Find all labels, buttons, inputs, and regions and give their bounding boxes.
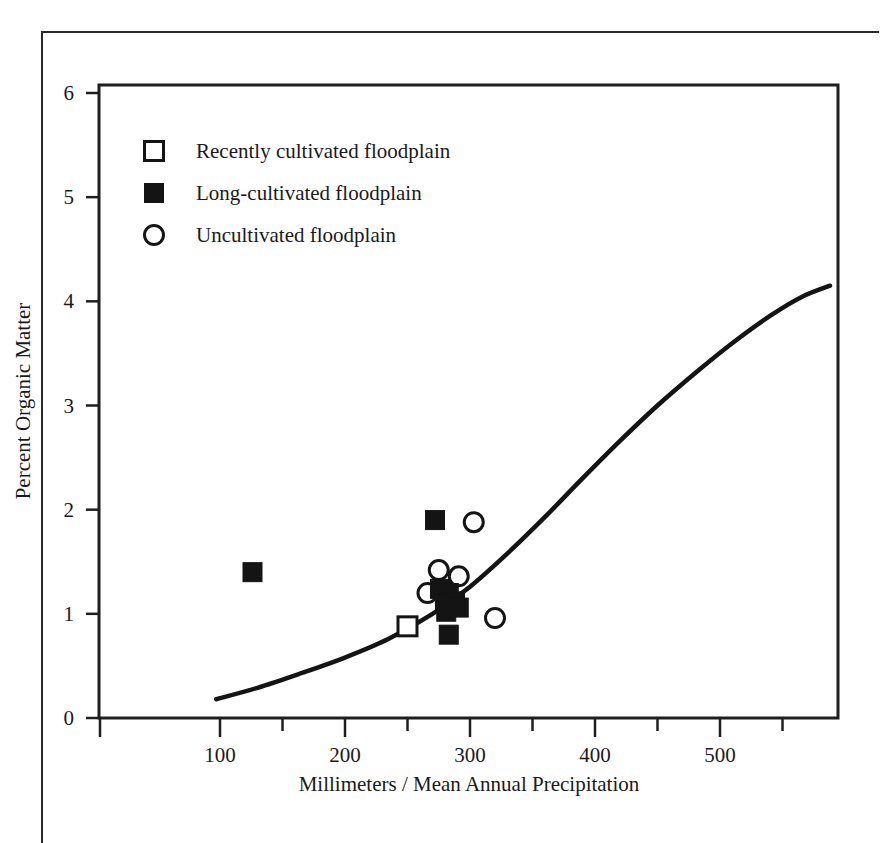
series-open-square bbox=[398, 617, 417, 636]
y-tick-label: 0 bbox=[64, 706, 75, 730]
figure-root: 0123456 100200300400500 Recently cultiva… bbox=[0, 0, 880, 843]
legend-marker-open-square bbox=[145, 142, 164, 161]
y-tick-label: 1 bbox=[64, 602, 75, 626]
data-marker-layer bbox=[243, 511, 505, 645]
y-tick-label: 2 bbox=[64, 498, 75, 522]
legend-entry: Uncultivated floodplain bbox=[145, 223, 397, 247]
x-axis-major-ticks bbox=[220, 718, 720, 737]
x-tick-label: 400 bbox=[579, 743, 611, 767]
data-point-filled-square bbox=[439, 625, 458, 644]
y-axis-tick-labels: 0123456 bbox=[64, 81, 75, 730]
legend: Recently cultivated floodplainLong-culti… bbox=[145, 139, 451, 247]
data-point-filled-square bbox=[437, 602, 456, 621]
legend-label: Recently cultivated floodplain bbox=[196, 139, 451, 163]
data-point-open-square bbox=[398, 617, 417, 636]
data-point-open-circle bbox=[429, 561, 448, 580]
y-tick-label: 5 bbox=[64, 185, 75, 209]
data-point-filled-square bbox=[243, 563, 262, 582]
x-tick-label: 300 bbox=[454, 743, 486, 767]
y-axis-title: Percent Organic Matter bbox=[11, 303, 35, 500]
x-axis-tick-labels: 100200300400500 bbox=[204, 743, 736, 767]
legend-entry: Recently cultivated floodplain bbox=[145, 139, 451, 163]
data-point-filled-square bbox=[426, 511, 445, 530]
x-tick-label: 200 bbox=[329, 743, 361, 767]
legend-marker-open-circle bbox=[145, 226, 164, 245]
fit-curve bbox=[216, 286, 830, 700]
x-tick-label: 100 bbox=[204, 743, 236, 767]
data-point-open-circle bbox=[486, 609, 505, 628]
legend-label: Uncultivated floodplain bbox=[196, 223, 397, 247]
legend-label: Long-cultivated floodplain bbox=[196, 181, 422, 205]
y-axis-ticks bbox=[86, 93, 99, 718]
data-point-open-circle bbox=[464, 513, 483, 532]
plot-frame bbox=[99, 85, 838, 718]
y-tick-label: 3 bbox=[64, 394, 75, 418]
legend-marker-filled-square bbox=[145, 184, 164, 203]
data-point-open-circle bbox=[449, 567, 468, 586]
y-tick-label: 6 bbox=[64, 81, 75, 105]
x-axis-minor-ticks bbox=[100, 718, 783, 737]
scatter-plot: 0123456 100200300400500 Recently cultiva… bbox=[0, 0, 880, 843]
legend-entry: Long-cultivated floodplain bbox=[145, 181, 423, 205]
x-axis-title: Millimeters / Mean Annual Precipitation bbox=[299, 772, 640, 796]
x-tick-label: 500 bbox=[704, 743, 736, 767]
y-tick-label: 4 bbox=[64, 289, 75, 313]
